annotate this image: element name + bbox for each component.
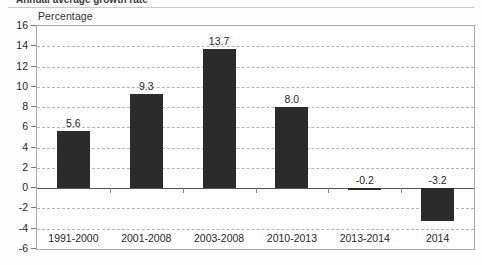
x-tick-mark bbox=[401, 188, 402, 193]
y-tick-label: 2 bbox=[0, 161, 28, 173]
y-tick-mark bbox=[31, 187, 36, 188]
y-tick-label: 4 bbox=[0, 141, 28, 153]
y-tick-label: 12 bbox=[0, 60, 28, 72]
bar[interactable] bbox=[348, 188, 381, 190]
category-label: 2014 bbox=[402, 232, 474, 244]
y-tick-mark bbox=[31, 25, 36, 26]
gridline bbox=[37, 107, 474, 108]
category-label: 2001-2008 bbox=[110, 232, 182, 244]
y-tick-label: 0 bbox=[0, 181, 28, 193]
bar-value-label: 9.3 bbox=[111, 80, 181, 92]
bar[interactable] bbox=[57, 131, 90, 188]
chart-page: Annual average growth rate Percentage 5.… bbox=[0, 0, 482, 265]
gridline bbox=[37, 168, 474, 169]
y-tick-label: 8 bbox=[0, 100, 28, 112]
title-divider bbox=[8, 7, 474, 8]
y-tick-mark bbox=[31, 207, 36, 208]
y-tick-mark bbox=[31, 126, 36, 127]
title-text: Annual average growth rate bbox=[16, 0, 148, 5]
bar[interactable] bbox=[275, 107, 308, 188]
x-tick-mark bbox=[183, 188, 184, 193]
y-tick-label: 16 bbox=[0, 19, 28, 31]
y-tick-mark bbox=[31, 147, 36, 148]
y-tick-label: -4 bbox=[0, 222, 28, 234]
gridline bbox=[37, 229, 474, 230]
bar[interactable] bbox=[203, 49, 236, 188]
category-label: 2010-2013 bbox=[256, 232, 328, 244]
bar-value-label: -3.2 bbox=[403, 174, 473, 186]
bar[interactable] bbox=[130, 94, 163, 188]
x-tick-mark bbox=[328, 188, 329, 193]
y-axis-title: Percentage bbox=[38, 10, 93, 22]
gridline bbox=[37, 208, 474, 209]
bar[interactable] bbox=[421, 188, 454, 220]
y-tick-mark bbox=[31, 248, 36, 249]
y-tick-mark bbox=[31, 167, 36, 168]
bar-value-label: 13.7 bbox=[184, 35, 254, 47]
gridline bbox=[37, 46, 474, 47]
y-tick-mark bbox=[31, 86, 36, 87]
x-tick-mark bbox=[256, 188, 257, 193]
y-tick-label: 6 bbox=[0, 120, 28, 132]
y-tick-mark bbox=[31, 228, 36, 229]
x-tick-mark bbox=[110, 188, 111, 193]
bar-value-label: 8.0 bbox=[257, 93, 327, 105]
gridline bbox=[37, 148, 474, 149]
y-tick-mark bbox=[31, 106, 36, 107]
y-tick-label: 14 bbox=[0, 39, 28, 51]
category-label: 2003-2008 bbox=[183, 232, 255, 244]
category-label: 1991-2000 bbox=[37, 232, 109, 244]
y-tick-mark bbox=[31, 66, 36, 67]
bar-value-label: 5.6 bbox=[38, 117, 108, 129]
cropped-title: Annual average growth rate bbox=[0, 0, 482, 7]
gridline bbox=[37, 67, 474, 68]
y-tick-label: 10 bbox=[0, 80, 28, 92]
y-tick-mark bbox=[31, 45, 36, 46]
bar-value-label: -0.2 bbox=[330, 174, 400, 186]
category-label: 2013-2014 bbox=[329, 232, 401, 244]
y-tick-label: -2 bbox=[0, 201, 28, 213]
y-tick-label: -6 bbox=[0, 242, 28, 254]
gridline bbox=[37, 87, 474, 88]
plot-area: 5.69.313.78.0-0.2-3.2 1991-20002001-2008… bbox=[36, 25, 475, 250]
